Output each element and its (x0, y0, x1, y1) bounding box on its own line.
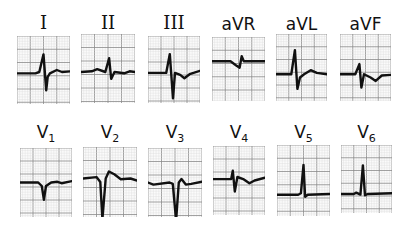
lead-label-text: aVF (350, 14, 382, 34)
ecg-strip (148, 36, 200, 103)
ecg-grid-panel (17, 36, 70, 104)
ecg-grid-panel (276, 34, 327, 101)
ecg-grid-panel (81, 34, 135, 103)
lead-label-subscript: 1 (48, 132, 55, 145)
lead-label-text: V (101, 122, 113, 142)
lead-label-subscript: 6 (369, 132, 376, 145)
ecg-grid-panel (212, 37, 265, 101)
ecg-strip (148, 148, 202, 217)
lead-label-text: V (37, 122, 49, 142)
lead-label: aVL (272, 16, 332, 33)
lead-label: II (78, 14, 138, 31)
ecg-strip (17, 36, 70, 104)
ecg-grid-panel (83, 147, 137, 217)
lead-label: V1 (16, 124, 76, 147)
lead-label: III (144, 14, 204, 31)
lead-label-text: II (101, 12, 115, 33)
lead-label: V5 (274, 124, 334, 147)
ecg-grid-panel (213, 146, 265, 215)
ecg-strip (276, 34, 327, 101)
ecg-strip (341, 145, 392, 213)
ecg-strip (212, 37, 265, 101)
lead-label: I (14, 14, 74, 31)
ecg-strip (81, 34, 135, 103)
ecg-grid-panel (341, 145, 392, 213)
lead-label-text: V (166, 122, 178, 142)
lead-label-text: III (163, 12, 184, 33)
ecg-strip (83, 147, 137, 217)
ecg-strip (20, 148, 72, 217)
ecg-grid-panel (340, 34, 391, 101)
ecg-grid-panel (20, 148, 72, 217)
ecg-strip (340, 34, 391, 101)
lead-label-subscript: 2 (112, 132, 119, 145)
lead-label-text: V (230, 122, 242, 142)
lead-label: V4 (209, 124, 269, 147)
ecg-strip (277, 145, 330, 216)
lead-label-text: aVL (286, 14, 318, 34)
lead-label-subscript: 3 (177, 132, 184, 145)
lead-label: V2 (80, 124, 140, 147)
lead-label-text: aVR (222, 14, 256, 34)
lead-label: aVF (336, 16, 396, 33)
lead-label: V6 (337, 124, 397, 147)
lead-label-subscript: 5 (306, 132, 313, 145)
lead-label: aVR (209, 16, 269, 33)
lead-label-text: I (40, 12, 47, 33)
lead-label-text: V (357, 122, 369, 142)
ecg-grid-panel (148, 148, 202, 217)
lead-label-text: V (294, 122, 306, 142)
ecg-grid-panel (277, 145, 330, 216)
ecg-grid-panel (148, 36, 200, 103)
ecg-strip (213, 146, 265, 215)
lead-label-subscript: 4 (241, 132, 248, 145)
lead-label: V3 (145, 124, 205, 147)
